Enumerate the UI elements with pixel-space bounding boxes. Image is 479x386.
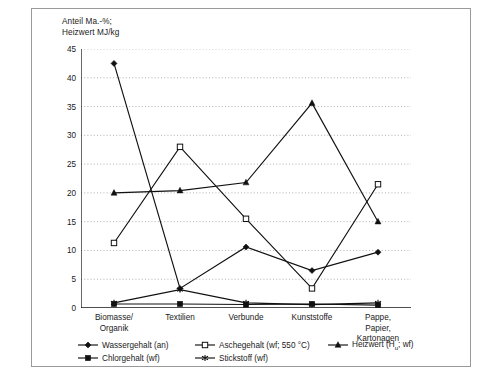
plot-area [81, 49, 411, 308]
axis-lines [81, 49, 411, 308]
data-point-marker [375, 182, 380, 187]
legend-marker-filled-diamond-icon [78, 339, 98, 351]
figure-container: Anteil Ma.-%; Heizwert MJ/kg 05101520253… [0, 0, 479, 386]
legend-label-subscript: u [395, 344, 398, 350]
data-point-marker [85, 355, 90, 360]
legend-label: Chlorgehalt (wf) [102, 354, 160, 363]
y-tick-label: 20 [54, 188, 76, 197]
series-2 [111, 144, 380, 291]
y-tick-label: 15 [54, 217, 76, 226]
y-tick-label: 0 [54, 304, 76, 313]
chart-legend: Wassergehalt (an)Aschegehalt (wf; 550 °C… [78, 339, 458, 365]
data-point-marker [375, 218, 381, 224]
legend-item-4[interactable]: Chlorgehalt (wf) [78, 352, 160, 364]
data-point-marker [309, 268, 315, 274]
data-point-marker [85, 342, 91, 348]
legend-label: Heizwert (Hu; wf) [352, 340, 414, 351]
data-point-marker [309, 286, 314, 291]
legend-item-5[interactable]: Stickstoff (wf) [195, 352, 268, 364]
data-point-marker [243, 244, 249, 250]
series-3 [111, 100, 381, 224]
series-1 [111, 60, 381, 291]
y-tick-label: 35 [54, 102, 76, 111]
legend-item-3[interactable]: Heizwert (Hu; wf) [328, 339, 414, 351]
legend-marker-open-square-icon [195, 339, 215, 351]
legend-item-1[interactable]: Wassergehalt (an) [78, 339, 169, 351]
y-tick-label: 10 [54, 246, 76, 255]
y-tick-label: 40 [54, 73, 76, 82]
series-line [114, 63, 378, 288]
legend-row: Chlorgehalt (wf)Stickstoff (wf) [78, 352, 458, 365]
series-line [114, 103, 378, 222]
legend-label: Aschegehalt (wf; 550 °C) [219, 341, 310, 350]
data-point-marker [111, 60, 117, 66]
data-point-marker [177, 144, 182, 149]
y-tick-label: 30 [54, 131, 76, 140]
y-tick-label: 5 [54, 275, 76, 284]
legend-row: Wassergehalt (an)Aschegehalt (wf; 550 °C… [78, 339, 458, 352]
y-tick-label: 25 [54, 160, 76, 169]
legend-marker-filled-triangle-icon [328, 339, 348, 351]
y-tick-label: 45 [54, 45, 76, 54]
y-axis-title: Anteil Ma.-%; Heizwert MJ/kg [62, 16, 119, 38]
data-point-marker [111, 240, 116, 245]
data-point-marker [202, 342, 207, 347]
legend-marker-star-icon [195, 352, 215, 364]
legend-marker-filled-square-icon [78, 352, 98, 364]
legend-label: Wassergehalt (an) [102, 341, 169, 350]
data-point-marker [177, 301, 182, 306]
chart-svg [81, 49, 411, 308]
data-point-marker [243, 216, 248, 221]
legend-item-2[interactable]: Aschegehalt (wf; 550 °C) [195, 339, 310, 351]
data-point-marker [309, 100, 315, 106]
legend-label: Stickstoff (wf) [219, 354, 268, 363]
